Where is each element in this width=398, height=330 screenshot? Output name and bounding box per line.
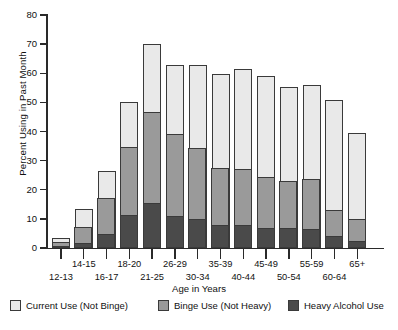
segment-heavy-alcohol-use [97, 234, 115, 249]
bar-50-54 [280, 87, 298, 248]
chart-legend: Current Use (Not Binge)Binge Use (Not He… [0, 300, 398, 318]
stacked-bar-chart-figure: Percent Using in Past Month 010203040506… [0, 0, 398, 330]
legend-label: Current Use (Not Binge) [26, 300, 128, 311]
x-tick [174, 249, 175, 259]
bar-14-15 [75, 209, 93, 248]
legend-label: Binge Use (Not Heavy) [174, 300, 271, 311]
x-tick-label-40-44: 40-44 [223, 272, 263, 282]
x-tick-label-16-17: 16-17 [87, 272, 127, 282]
y-tick [40, 218, 46, 219]
x-tick [197, 249, 198, 259]
y-tick [40, 189, 46, 190]
x-tick [83, 249, 84, 259]
bar-12-13 [52, 238, 70, 248]
x-tick [129, 249, 130, 259]
y-tick [40, 43, 46, 44]
x-tick [357, 249, 358, 259]
segment-heavy-alcohol-use [279, 228, 297, 248]
legend-swatch-icon [10, 300, 21, 311]
x-tick-label-35-39: 35-39 [201, 259, 241, 269]
segment-heavy-alcohol-use [348, 241, 366, 249]
bar-60-64 [325, 100, 343, 248]
segment-heavy-alcohol-use [188, 219, 206, 248]
x-tick [106, 249, 107, 259]
bar-65+ [348, 133, 366, 248]
legend-item-0: Current Use (Not Binge) [10, 300, 128, 311]
y-tick [40, 73, 46, 74]
y-tick-label: 70 [0, 39, 37, 49]
y-tick [40, 247, 46, 248]
bar-26-29 [166, 65, 184, 248]
y-tick-label: 10 [0, 214, 37, 224]
x-tick [311, 249, 312, 259]
bar-21-25 [143, 44, 161, 248]
x-tick [334, 249, 335, 259]
x-tick [288, 249, 289, 259]
y-tick-label: 30 [0, 156, 37, 166]
segment-heavy-alcohol-use [211, 225, 229, 248]
segment-heavy-alcohol-use [74, 243, 92, 249]
y-tick-label: 50 [0, 97, 37, 107]
bar-30-34 [189, 65, 207, 248]
caption-ghost [12, 321, 162, 328]
x-tick [151, 249, 152, 259]
segment-heavy-alcohol-use [143, 203, 161, 248]
y-tick [40, 102, 46, 103]
x-tick-label-55-59: 55-59 [292, 259, 332, 269]
legend-label: Heavy Alcohol Use [304, 300, 384, 311]
legend-item-2: Heavy Alcohol Use [288, 300, 384, 311]
y-tick-label: 20 [0, 185, 37, 195]
bar-40-44 [234, 69, 252, 248]
x-tick-label-45-49: 45-49 [246, 259, 286, 269]
segment-heavy-alcohol-use [234, 225, 252, 249]
y-tick-label: 0 [0, 243, 37, 253]
bar-45-49 [257, 76, 275, 248]
x-tick-label-18-20: 18-20 [109, 259, 149, 269]
x-tick-label-65+: 65+ [337, 259, 377, 269]
legend-swatch-icon [288, 300, 299, 311]
x-tick-label-60-64: 60-64 [314, 272, 354, 282]
y-tick [40, 160, 46, 161]
y-axis-line [46, 14, 48, 249]
x-tick [60, 249, 61, 259]
y-tick-label: 40 [0, 127, 37, 137]
x-tick-label-50-54: 50-54 [269, 272, 309, 282]
segment-heavy-alcohol-use [325, 236, 343, 249]
x-tick-label-26-29: 26-29 [155, 259, 195, 269]
x-tick [265, 249, 266, 259]
segment-heavy-alcohol-use [166, 216, 184, 249]
legend-swatch-icon [158, 300, 169, 311]
bar-35-39 [212, 74, 230, 248]
y-tick-label: 60 [0, 68, 37, 78]
legend-item-1: Binge Use (Not Heavy) [158, 300, 271, 311]
x-tick-label-14-15: 14-15 [64, 259, 104, 269]
y-tick [40, 131, 46, 132]
segment-heavy-alcohol-use [302, 229, 320, 248]
segment-heavy-alcohol-use [257, 228, 275, 249]
x-axis-title: Age in Years [0, 283, 398, 294]
bar-18-20 [120, 102, 138, 248]
y-tick [40, 14, 46, 15]
bar-55-59 [303, 85, 321, 248]
x-tick [243, 249, 244, 259]
x-tick-label-30-34: 30-34 [178, 272, 218, 282]
x-tick-label-12-13: 12-13 [41, 272, 81, 282]
x-tick [220, 249, 221, 259]
y-tick-label: 80 [0, 10, 37, 20]
x-tick-label-21-25: 21-25 [132, 272, 172, 282]
segment-heavy-alcohol-use [120, 215, 138, 249]
bar-16-17 [98, 171, 116, 248]
